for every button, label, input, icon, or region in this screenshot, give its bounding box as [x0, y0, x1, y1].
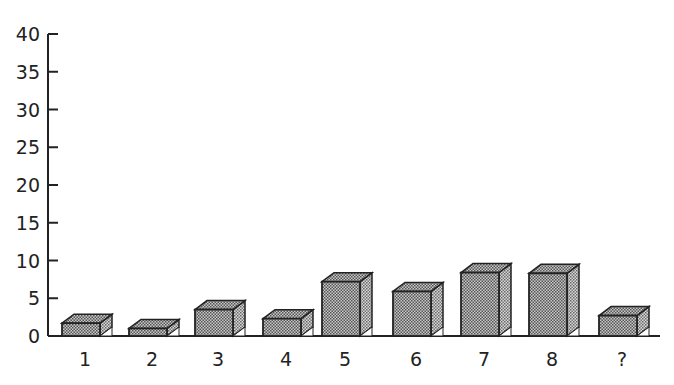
bar-2: [129, 319, 179, 336]
bar-4: [263, 310, 313, 336]
bar-?: [599, 307, 649, 336]
bars: [62, 264, 649, 336]
y-tick-label: 25: [16, 136, 40, 158]
y-tick-label: 5: [28, 287, 40, 309]
x-tick-label: ?: [617, 348, 627, 370]
bar-5: [322, 273, 372, 336]
bar-chart: 0510152025303540 12345678?: [0, 0, 674, 385]
x-tick-label: 5: [339, 348, 351, 370]
x-tick-label: 7: [478, 348, 490, 370]
y-tick-label: 35: [16, 61, 40, 83]
y-tick-label: 40: [16, 23, 40, 45]
x-tick-label: 8: [546, 348, 558, 370]
x-axis-labels: 12345678?: [79, 348, 627, 370]
y-axis: 0510152025303540: [16, 23, 58, 347]
bar-1: [62, 314, 112, 336]
bar-8: [529, 264, 579, 336]
x-tick-label: 4: [280, 348, 292, 370]
y-tick-label: 10: [16, 250, 40, 272]
x-tick-label: 6: [410, 348, 422, 370]
y-tick-label: 20: [16, 174, 40, 196]
x-tick-label: 3: [212, 348, 224, 370]
bar-6: [393, 282, 443, 336]
y-tick-label: 30: [16, 99, 40, 121]
bar-7: [461, 264, 511, 336]
x-tick-label: 2: [146, 348, 158, 370]
x-tick-label: 1: [79, 348, 91, 370]
y-tick-label: 0: [28, 325, 40, 347]
bar-3: [195, 301, 245, 336]
y-tick-label: 15: [16, 212, 40, 234]
